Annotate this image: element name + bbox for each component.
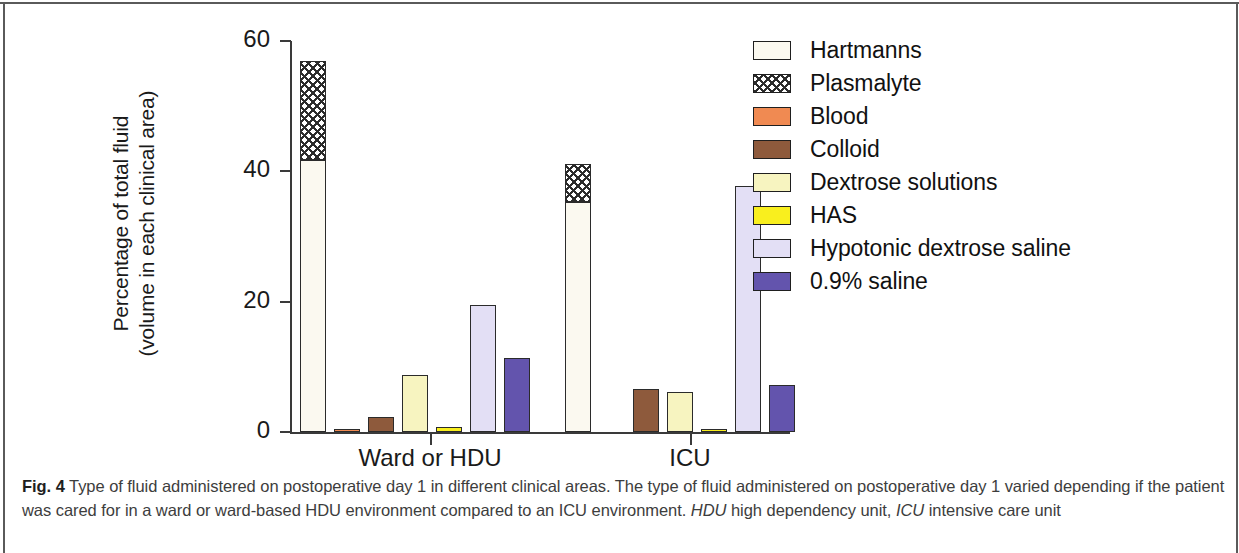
legend-label: Dextrose solutions bbox=[810, 169, 997, 196]
bar-0-9-saline-icu bbox=[769, 385, 795, 432]
y-tick-mark bbox=[280, 301, 291, 303]
legend-swatch-colloid bbox=[753, 140, 791, 159]
page-rule-right bbox=[1236, 2, 1238, 553]
legend-item: Hartmanns bbox=[753, 34, 1071, 67]
bar-chart-plot-area: Percentage of total fluid (volume in eac… bbox=[0, 0, 800, 465]
bar-plasmalyte-ward-or-hdu bbox=[300, 61, 326, 160]
bar-dextrose-solutions-icu bbox=[667, 392, 693, 432]
caption-body-2: high dependency unit, bbox=[726, 501, 895, 519]
caption-abbr-hdu: HDU bbox=[691, 501, 727, 519]
caption-body-3: intensive care unit bbox=[924, 501, 1061, 519]
x-tick-label: Ward or HDU bbox=[310, 444, 550, 472]
legend-item: Dextrose solutions bbox=[753, 166, 1071, 199]
figure-caption: Fig. 4 Type of fluid administered on pos… bbox=[22, 474, 1227, 523]
y-axis-title: Percentage of total fluid (volume in eac… bbox=[108, 24, 159, 424]
legend-swatch-0-9-saline bbox=[753, 272, 791, 291]
legend-label: Colloid bbox=[810, 136, 880, 163]
bar-has-icu bbox=[701, 429, 727, 432]
legend-swatch-hypotonic-dextrose-saline bbox=[753, 239, 791, 258]
legend-label: Blood bbox=[810, 103, 868, 130]
y-tick-mark bbox=[280, 170, 291, 172]
legend-swatch-plasmalyte bbox=[753, 74, 791, 93]
legend-item: Blood bbox=[753, 100, 1071, 133]
y-tick-label: 0 bbox=[200, 416, 270, 444]
bar-plasmalyte-icu bbox=[565, 164, 591, 202]
legend-swatch-dextrose-solutions bbox=[753, 173, 791, 192]
bar-hartmanns-ward-or-hdu bbox=[300, 160, 326, 432]
legend-swatch-has bbox=[753, 206, 791, 225]
legend-label: Hypotonic dextrose saline bbox=[810, 235, 1071, 262]
figure-number: Fig. 4 bbox=[22, 477, 65, 495]
legend-label: HAS bbox=[810, 202, 857, 229]
y-tick-label: 60 bbox=[200, 25, 270, 53]
legend-item: 0.9% saline bbox=[753, 265, 1071, 298]
legend-label: 0.9% saline bbox=[810, 268, 928, 295]
y-tick-label-wrap: 40 bbox=[190, 170, 280, 172]
y-tick-label: 20 bbox=[200, 286, 270, 314]
bar-colloid-icu bbox=[633, 389, 659, 432]
bar-hartmanns-icu bbox=[565, 202, 591, 432]
bar-0-9-saline-ward-or-hdu bbox=[504, 358, 530, 432]
y-tick-label: 40 bbox=[200, 155, 270, 183]
bar-has-ward-or-hdu bbox=[436, 427, 462, 432]
legend-swatch-hartmanns bbox=[753, 41, 791, 60]
chart-legend: HartmannsPlasmalyteBloodColloidDextrose … bbox=[753, 34, 1071, 298]
x-tick-label: ICU bbox=[570, 444, 810, 472]
legend-item: Hypotonic dextrose saline bbox=[753, 232, 1071, 265]
y-tick-mark bbox=[280, 431, 291, 433]
bar-blood-ward-or-hdu bbox=[334, 429, 360, 432]
y-tick-mark bbox=[280, 40, 291, 42]
y-axis-line bbox=[290, 41, 292, 433]
bar-colloid-ward-or-hdu bbox=[368, 417, 394, 432]
legend-item: HAS bbox=[753, 199, 1071, 232]
legend-swatch-blood bbox=[753, 107, 791, 126]
y-tick-label-wrap: 60 bbox=[190, 40, 280, 42]
caption-abbr-icu: ICU bbox=[896, 501, 924, 519]
legend-item: Plasmalyte bbox=[753, 67, 1071, 100]
legend-item: Colloid bbox=[753, 133, 1071, 166]
bar-dextrose-solutions-ward-or-hdu bbox=[402, 375, 428, 432]
legend-label: Hartmanns bbox=[810, 37, 922, 64]
y-tick-label-wrap: 0 bbox=[190, 431, 280, 433]
figure-container: Percentage of total fluid (volume in eac… bbox=[0, 0, 1239, 553]
legend-label: Plasmalyte bbox=[810, 70, 922, 97]
y-tick-label-wrap: 20 bbox=[190, 301, 280, 303]
bar-hypotonic-dextrose-saline-ward-or-hdu bbox=[470, 305, 496, 432]
